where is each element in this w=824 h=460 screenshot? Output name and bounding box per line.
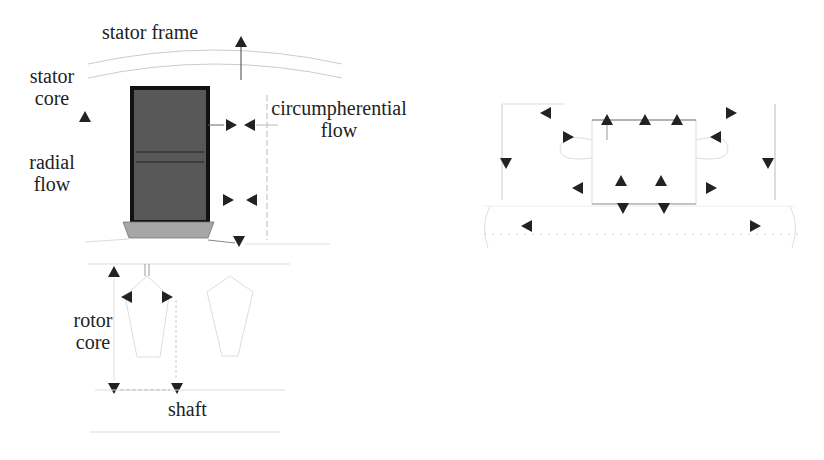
slot-wedge (123, 222, 214, 238)
arrow-right-icon (726, 107, 737, 119)
label-shaft: shaft (168, 398, 207, 420)
arrow-down-icon (171, 383, 183, 394)
arrow-left-icon (246, 194, 257, 206)
arrow-left-icon (244, 119, 255, 131)
central-conductor (592, 120, 696, 204)
arrow-left-icon (710, 131, 721, 143)
rotor-slot-2 (207, 276, 253, 356)
arrow-down-icon (658, 203, 670, 214)
label-circumferential-flow-line2: flow (270, 119, 408, 141)
label-radial-flow-line1: radial (22, 151, 82, 173)
arrow-down-icon (617, 203, 629, 214)
arrow-right-icon (223, 194, 234, 206)
stator-coil (132, 88, 208, 222)
label-stator-frame: stator frame (102, 21, 198, 43)
stator-frame-arc-outer (88, 50, 342, 64)
label-circumferential-flow: circumpherential flow (270, 97, 408, 141)
arrow-right-icon (563, 131, 574, 143)
arrow-down-icon (108, 383, 120, 394)
arrow-down-icon (233, 236, 245, 247)
label-radial-flow: radial flow (22, 151, 82, 195)
arrow-up-icon (108, 266, 120, 277)
label-rotor-core-line2: core (68, 331, 118, 353)
label-stator-core-line2: core (22, 87, 82, 109)
arrow-up-icon (235, 36, 247, 47)
label-stator-core: stator core (22, 65, 82, 109)
arrow-right-icon (226, 119, 237, 131)
label-rotor-core: rotor core (68, 309, 118, 353)
rotor-slot-1 (125, 276, 169, 357)
arrow-right-icon (162, 291, 173, 303)
arrow-down-icon (762, 158, 774, 169)
arrow-up-icon (79, 111, 91, 122)
label-stator-core-line1: stator (22, 65, 82, 87)
label-radial-flow-line2: flow (22, 173, 82, 195)
right-diagram (484, 104, 800, 248)
label-circumferential-flow-line1: circumpherential (270, 97, 408, 119)
arrow-up-icon (615, 175, 627, 186)
arrow-left-icon (572, 182, 583, 194)
arrow-right-icon (706, 182, 717, 194)
arrow-right-icon (750, 220, 761, 232)
left-diagram (79, 36, 342, 432)
stator-frame-arc-inner (88, 64, 342, 78)
label-rotor-core-line1: rotor (68, 309, 118, 331)
cooling-flow-diagram (0, 0, 824, 460)
arrow-up-icon (655, 175, 667, 186)
arrow-left-icon (540, 107, 551, 119)
arrow-left-icon (521, 220, 532, 232)
